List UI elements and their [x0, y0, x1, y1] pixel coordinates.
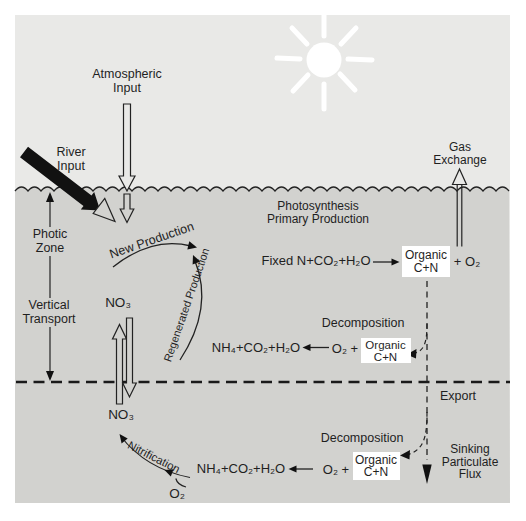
o2-plus-deep-label: O₂ +	[323, 463, 349, 477]
photic-zone-label: Photic Zone	[30, 227, 71, 256]
plus-o2-label: + O₂	[454, 255, 480, 269]
o2-deep-label: O₂	[169, 487, 185, 501]
remineralization-products-upper-label: NH₄+CO₂+H₂O	[212, 341, 300, 355]
vertical-transport-label: Vertical Transport	[19, 298, 78, 327]
o2-plus-upper-label: O₂ +	[332, 342, 358, 356]
no3-photic-label: NO₃	[105, 296, 131, 310]
decomposition-lower-label: Decomposition	[321, 432, 404, 446]
ocean-nitrogen-cycle-diagram: Atmospheric Input River Input Photic Zon…	[0, 0, 526, 521]
gas-exchange-label: Gas Exchange	[433, 141, 486, 166]
no3-deep-label: NO₃	[108, 408, 134, 422]
organic-cn-box-decomposition-upper: Organic C+N	[361, 338, 411, 363]
photosynthesis-reactants-label: Fixed N+CO₂+H₂O	[261, 254, 370, 268]
organic-cn-box-decomposition-lower: Organic C+N	[353, 452, 400, 480]
export-label: Export	[440, 390, 476, 404]
atmospheric-input-label: Atmospheric Input	[92, 68, 161, 95]
organic-cn-box-photosynthesis: Organic C+N	[402, 246, 450, 277]
river-input-label: River Input	[56, 146, 85, 173]
sinking-particulate-flux-label: Sinking Particulate Flux	[442, 443, 499, 481]
remineralization-products-deep-label: NH₄+CO₂+H₂O	[197, 462, 285, 476]
photosynthesis-label: Photosynthesis Primary Production	[267, 200, 369, 225]
decomposition-upper-label: Decomposition	[322, 317, 405, 331]
